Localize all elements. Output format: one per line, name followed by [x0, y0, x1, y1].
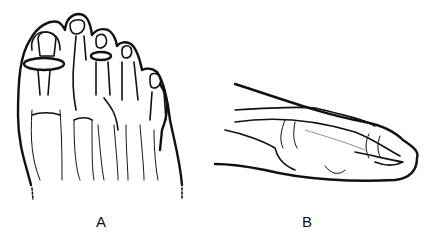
- toe-lateral-illustration: [205, 70, 428, 195]
- panel-label-b: B: [302, 213, 312, 230]
- foot-drawing: [0, 0, 210, 200]
- forefoot-dorsal-illustration: [0, 0, 210, 200]
- toe-side-drawing: [205, 70, 428, 195]
- panel-label-a: A: [96, 213, 106, 230]
